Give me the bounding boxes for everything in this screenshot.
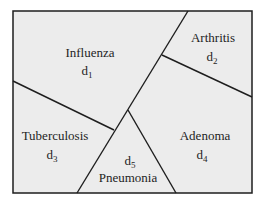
diagram-canvas: Influenza d1 Arthritis d2 Tuberculosis d… — [0, 0, 263, 205]
region-label-arthritis: Arthritis — [191, 30, 235, 45]
region-label-pneumonia: Pneumonia — [99, 170, 158, 185]
region-label-influenza: Influenza — [65, 45, 114, 60]
region-label-adenoma: Adenoma — [180, 128, 231, 143]
region-label-tuberculosis: Tuberculosis — [22, 128, 89, 143]
